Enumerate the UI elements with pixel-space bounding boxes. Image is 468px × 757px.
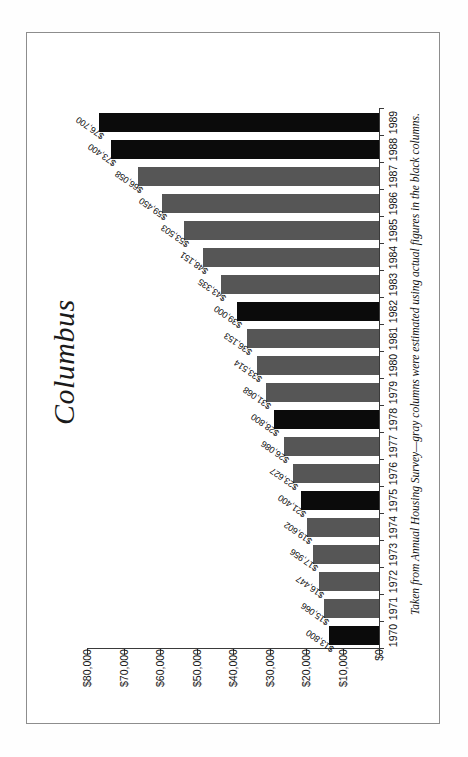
page-title: Columbus	[47, 299, 81, 425]
category-label-1977: 1977	[387, 435, 399, 458]
category-axis: 1970197119721973197419751976197719781979…	[379, 109, 380, 649]
category-axis-tick	[379, 540, 384, 541]
category-label-1981: 1981	[387, 327, 399, 350]
category-axis-tick-end	[379, 108, 384, 109]
bar-1972	[319, 572, 379, 591]
category-label-1986: 1986	[387, 192, 399, 215]
bar-1985	[184, 221, 379, 240]
category-label-1982: 1982	[387, 300, 399, 323]
bar-1987	[138, 167, 379, 186]
category-label-1972: 1972	[387, 570, 399, 593]
category-label-1988: 1988	[387, 138, 399, 161]
bar-1979	[266, 383, 379, 402]
bar-1977	[284, 437, 379, 456]
bar-1984	[203, 248, 379, 267]
rotation-wrapper: Columbus $0$10,000$20,000$30,000$40,000$…	[27, 33, 441, 725]
category-axis-tick	[379, 621, 384, 622]
category-label-1985: 1985	[387, 219, 399, 242]
scanned-page: Columbus $0$10,000$20,000$30,000$40,000$…	[0, 0, 468, 757]
category-label-1978: 1978	[387, 408, 399, 431]
bar-chart: Columbus $0$10,000$20,000$30,000$40,000$…	[27, 33, 441, 725]
category-label-1987: 1987	[387, 165, 399, 188]
value-axis-label: $70,000	[118, 649, 130, 687]
category-axis-tick	[379, 648, 384, 649]
figure-frame: Columbus $0$10,000$20,000$30,000$40,000$…	[26, 32, 440, 724]
value-axis-label: $60,000	[154, 649, 166, 687]
bar-1978	[274, 410, 379, 429]
category-label-1974: 1974	[387, 516, 399, 539]
category-axis-tick	[379, 567, 384, 568]
bar-1983	[221, 275, 379, 294]
category-label-1973: 1973	[387, 543, 399, 566]
value-axis-label: $30,000	[264, 649, 276, 687]
category-label-1975: 1975	[387, 489, 399, 512]
category-axis-tick	[379, 243, 384, 244]
category-axis-tick	[379, 351, 384, 352]
plot-area: $13,800$15,066$16,447$17,956$19,602$21,4…	[87, 109, 379, 649]
bar-1980	[257, 356, 379, 375]
category-axis-tick	[379, 324, 384, 325]
bar-1971	[324, 599, 379, 618]
value-axis-label: $20,000	[300, 649, 312, 687]
bar-1986	[162, 194, 379, 213]
category-label-1970: 1970	[387, 624, 399, 647]
category-axis-tick	[379, 270, 384, 271]
category-label-1984: 1984	[387, 246, 399, 269]
category-axis-tick	[379, 432, 384, 433]
bar-1973	[313, 545, 379, 564]
bar-1976	[293, 464, 379, 483]
bar-1981	[247, 329, 379, 348]
bar-1974	[307, 518, 379, 537]
category-axis-tick	[379, 486, 384, 487]
bar-1975	[301, 491, 379, 510]
category-label-1989: 1989	[387, 111, 399, 134]
category-axis-tick	[379, 297, 384, 298]
value-axis-label: $0	[373, 649, 385, 661]
category-axis-tick	[379, 216, 384, 217]
category-label-1976: 1976	[387, 462, 399, 485]
bar-1989	[99, 113, 379, 132]
figure-caption: Taken from Annual Housing Survey—gray co…	[409, 113, 421, 615]
category-axis-tick	[379, 135, 384, 136]
category-label-1983: 1983	[387, 273, 399, 296]
category-axis-tick	[379, 459, 384, 460]
category-axis-tick	[379, 405, 384, 406]
value-axis-label: $50,000	[191, 649, 203, 687]
bar-1970	[329, 626, 379, 645]
category-axis-tick	[379, 162, 384, 163]
category-label-1980: 1980	[387, 354, 399, 377]
category-axis-tick	[379, 594, 384, 595]
value-axis-label: $40,000	[227, 649, 239, 687]
category-axis-tick	[379, 189, 384, 190]
category-axis-tick	[379, 513, 384, 514]
bar-1988	[111, 140, 379, 159]
value-axis-label: $10,000	[337, 649, 349, 687]
bar-1982	[237, 302, 379, 321]
category-axis-tick	[379, 378, 384, 379]
category-label-1979: 1979	[387, 381, 399, 404]
value-axis-label: $80,000	[81, 649, 93, 687]
category-label-1971: 1971	[387, 597, 399, 620]
